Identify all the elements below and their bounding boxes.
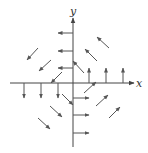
vector-arrow-quadrant-4 — [96, 95, 108, 106]
vector-arrow-quadrant-4 — [84, 82, 96, 93]
vector-arrow-quadrant-4 — [109, 107, 120, 118]
vector-arrow-quadrant-1 — [97, 37, 109, 48]
vector-arrow-quadrant-1 — [85, 49, 97, 61]
vector-arrow-quadrant-3 — [38, 118, 50, 129]
vector-arrow-quadrant-2 — [39, 60, 51, 71]
vector-arrow-quadrant-2 — [51, 72, 62, 83]
vector-arrow-quadrant-1 — [73, 61, 84, 73]
vector-field-diagram: x y — [0, 0, 148, 153]
vector-arrow-quadrant-2 — [27, 48, 38, 60]
y-axis-label: y — [69, 5, 77, 18]
vector-arrow-quadrant-3 — [50, 106, 62, 117]
x-axis-label: x — [136, 77, 143, 90]
vector-arrow-quadrant-3 — [62, 94, 73, 105]
